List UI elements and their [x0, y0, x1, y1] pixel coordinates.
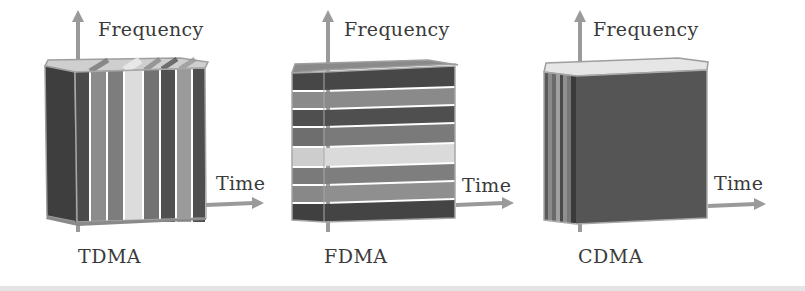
fdma-diagram	[280, 0, 540, 291]
fdma-panel: Frequency Time FDMA	[280, 0, 540, 291]
bottom-divider	[0, 286, 805, 291]
fdma-side-bands	[292, 72, 324, 222]
tdma-caption: TDMA	[78, 245, 141, 267]
time-axis-arrow-icon	[456, 197, 514, 209]
cdma-caption: CDMA	[578, 245, 643, 267]
tdma-panel: Frequency Time TDMA	[30, 0, 290, 291]
time-axis-arrow-icon	[206, 197, 264, 209]
cdma-panel: Frequency Time CDMA	[530, 0, 790, 291]
fdma-caption: FDMA	[324, 245, 388, 267]
time-axis-arrow-icon	[708, 198, 766, 210]
time-label: Time	[714, 172, 763, 194]
cdma-diagram	[530, 0, 800, 291]
frequency-label: Frequency	[98, 18, 203, 40]
frequency-label: Frequency	[344, 18, 449, 40]
cdma-code-layers	[544, 72, 576, 223]
tdma-time-slots	[75, 69, 205, 222]
frequency-label: Frequency	[593, 18, 698, 40]
tdma-diagram	[30, 0, 290, 291]
time-label: Time	[462, 174, 511, 196]
fdma-frequency-channels	[324, 66, 455, 222]
time-label: Time	[216, 172, 265, 194]
